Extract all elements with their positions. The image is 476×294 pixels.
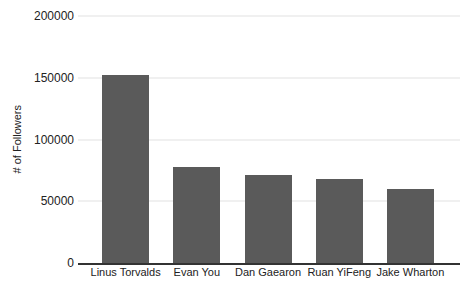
bar (245, 175, 292, 263)
bars-container (78, 16, 460, 263)
y-tick-label: 0 (67, 256, 74, 270)
bar-chart: # of Followers 050000100000150000200000 … (0, 0, 476, 294)
y-tick-label: 200000 (34, 9, 74, 23)
x-axis-label: Dan Gaearon (232, 266, 303, 278)
bar (173, 167, 220, 263)
bar (387, 189, 434, 263)
x-axis-labels: Linus TorvaldsEvan YouDan GaearonRuan Yi… (78, 266, 460, 278)
x-axis-label: Ruan YiFeng (304, 266, 375, 278)
bar-slot (161, 16, 232, 263)
bar-slot (232, 16, 303, 263)
y-axis-tick-labels: 050000100000150000200000 (0, 16, 74, 263)
x-axis-label: Evan You (161, 266, 232, 278)
x-axis-label: Jake Wharton (375, 266, 446, 278)
bar-slot (375, 16, 446, 263)
plot-area (78, 16, 460, 265)
y-tick-label: 50000 (41, 194, 74, 208)
y-tick-label: 150000 (34, 71, 74, 85)
bar-slot (90, 16, 161, 263)
bar-slot (304, 16, 375, 263)
bar (316, 179, 363, 263)
y-tick-label: 100000 (34, 133, 74, 147)
x-axis-label: Linus Torvalds (90, 266, 161, 278)
bar (102, 75, 149, 263)
